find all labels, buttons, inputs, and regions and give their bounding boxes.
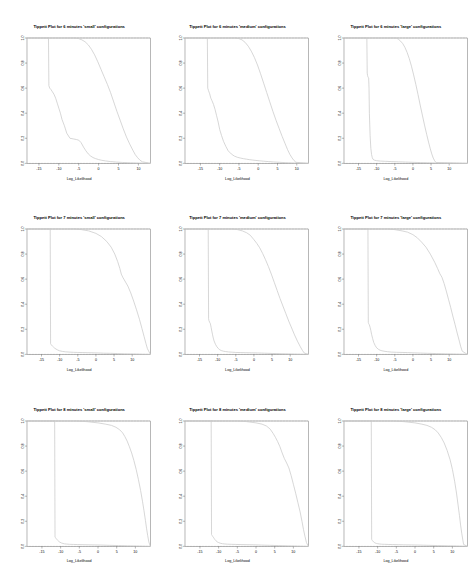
series-curve: [344, 38, 467, 163]
plot-area: 0.00.20.40.60.81.0-15-10-50510: [158, 14, 316, 205]
x-tick-label: 0: [414, 550, 416, 554]
y-tick-label: 0.0: [180, 352, 184, 357]
x-tick-label: 10: [450, 550, 454, 554]
x-tick-label: -15: [356, 550, 361, 554]
plot-border: [27, 421, 150, 546]
x-tick-label: -10: [58, 550, 63, 554]
x-tick-label: -5: [393, 359, 396, 363]
x-tick-label: -5: [78, 550, 81, 554]
x-tick-label: 5: [277, 167, 279, 171]
x-tick-label: -5: [235, 359, 238, 363]
plot-panel: Tippett Plot for 6 minutes 'large' confi…: [317, 14, 475, 205]
x-tick-label: -15: [39, 550, 44, 554]
plot-area: 0.00.20.40.60.81.0-15-10-50510: [0, 397, 158, 588]
series-curve: [185, 421, 308, 546]
plot-panel: Tippett Plot for 7 minutes 'small' confi…: [0, 205, 158, 396]
x-tick-label: -5: [393, 167, 396, 171]
y-tick-label: 0.6: [21, 86, 25, 91]
x-tick-label: 0: [258, 167, 260, 171]
x-tick-label: 0: [253, 359, 255, 363]
y-tick-label: 0.0: [338, 161, 342, 166]
x-tick-label: 10: [295, 167, 299, 171]
plot-border: [27, 38, 150, 163]
plot-panel: Tippett Plot for 6 minutes 'small' confi…: [0, 14, 158, 205]
y-tick-label: 1.0: [180, 36, 184, 41]
x-tick-label: 5: [432, 550, 434, 554]
y-tick-label: 0.8: [338, 443, 342, 448]
x-tick-label: -15: [36, 167, 41, 171]
x-tick-label: -10: [375, 550, 380, 554]
x-tick-label: -5: [236, 550, 239, 554]
x-tick-label: -5: [238, 167, 241, 171]
y-tick-label: 0.6: [338, 277, 342, 282]
y-tick-label: 0.8: [21, 61, 25, 66]
x-tick-label: -15: [356, 167, 361, 171]
x-tick-label: -10: [57, 359, 62, 363]
x-tick-label: 5: [430, 359, 432, 363]
y-tick-label: 1.0: [21, 418, 25, 423]
x-tick-label: -15: [39, 359, 44, 363]
y-tick-label: 0.2: [21, 136, 25, 141]
y-tick-label: 1.0: [338, 36, 342, 41]
plot-panel: Tippett Plot for 8 minutes 'small' confi…: [0, 397, 158, 588]
x-tick-label: -10: [374, 359, 379, 363]
x-tick-label: -15: [198, 167, 203, 171]
x-tick-label: 10: [447, 359, 451, 363]
y-tick-label: 0.8: [180, 443, 184, 448]
y-tick-label: 0.6: [180, 86, 184, 91]
plot-area: 0.00.20.40.60.81.0-15-10-50510: [317, 397, 475, 588]
plot-area: 0.00.20.40.60.81.0-15-10-50510: [0, 14, 158, 205]
y-tick-label: 0.4: [180, 493, 184, 498]
x-tick-label: 10: [289, 359, 293, 363]
y-tick-label: 1.0: [21, 227, 25, 232]
plot-panel: Tippett Plot for 8 minutes 'medium' conf…: [158, 397, 316, 588]
series-curve: [344, 229, 467, 354]
series-curve: [27, 421, 150, 546]
y-tick-label: 0.4: [338, 111, 342, 116]
plot-area: 0.00.20.40.60.81.0-15-10-50510: [0, 205, 158, 396]
y-tick-label: 0.4: [21, 493, 25, 498]
y-tick-label: 0.4: [21, 302, 25, 307]
y-tick-label: 0.8: [338, 252, 342, 257]
x-tick-label: 5: [430, 167, 432, 171]
x-tick-label: 0: [412, 167, 414, 171]
x-tick-label: 0: [255, 550, 257, 554]
series-curve: [27, 229, 150, 354]
y-tick-label: 0.0: [180, 161, 184, 166]
y-tick-label: 0.0: [21, 161, 25, 166]
x-tick-label: 5: [118, 167, 120, 171]
plot-border: [185, 38, 308, 163]
panel-grid: Tippett Plot for 6 minutes 'small' confi…: [0, 14, 475, 588]
x-tick-label: -10: [216, 550, 221, 554]
series-curve: [344, 38, 467, 163]
y-tick-label: 0.4: [180, 302, 184, 307]
y-tick-label: 0.4: [338, 493, 342, 498]
y-tick-label: 0.4: [338, 302, 342, 307]
x-tick-label: 5: [113, 359, 115, 363]
y-tick-label: 0.2: [338, 136, 342, 141]
y-tick-label: 0.2: [21, 327, 25, 332]
x-tick-label: 0: [412, 359, 414, 363]
plot-border: [185, 421, 308, 546]
y-tick-label: 0.6: [21, 468, 25, 473]
y-tick-label: 0.0: [338, 352, 342, 357]
y-tick-label: 0.2: [180, 136, 184, 141]
y-tick-label: 0.8: [21, 443, 25, 448]
x-tick-label: -15: [198, 550, 203, 554]
x-tick-label: -10: [56, 167, 61, 171]
x-tick-label: 0: [97, 550, 99, 554]
plot-border: [185, 229, 308, 354]
plot-panel: Tippett Plot for 6 minutes 'medium' conf…: [158, 14, 316, 205]
series-curve: [27, 38, 150, 163]
x-tick-label: 0: [95, 359, 97, 363]
plot-border: [344, 229, 467, 354]
x-tick-label: -5: [76, 359, 79, 363]
y-tick-label: 0.2: [21, 518, 25, 523]
y-tick-label: 0.6: [180, 277, 184, 282]
y-tick-label: 0.6: [21, 277, 25, 282]
y-tick-label: 0.4: [180, 111, 184, 116]
y-tick-label: 0.6: [338, 468, 342, 473]
y-tick-label: 0.2: [338, 327, 342, 332]
x-tick-label: 5: [116, 550, 118, 554]
plot-border: [27, 229, 150, 354]
